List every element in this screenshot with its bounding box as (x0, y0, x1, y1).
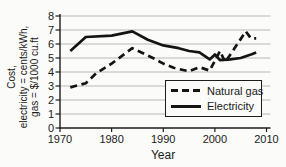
x-tick-label-2010: 2010 (249, 134, 285, 145)
legend-label-electricity: Electricity (207, 100, 254, 112)
y-tick-label-1: 1 (36, 109, 54, 120)
legend-label-natural-gas: Natural gas (207, 85, 263, 97)
x-tick-label-1980: 1980 (94, 134, 130, 145)
x-axis-title: Year (60, 148, 266, 162)
chart-figure: Cost, electricity = cents/kWh, gas = $/1… (0, 0, 286, 167)
x-tick-label-1990: 1990 (145, 134, 181, 145)
y-tick-label-0: 0 (36, 123, 54, 134)
y-tick-label-8: 8 (36, 11, 54, 22)
x-tick-label-2000: 2000 (197, 134, 233, 145)
y-tick-label-3: 3 (36, 81, 54, 92)
legend-item-natural-gas: Natural gas (171, 85, 256, 97)
y-tick-label-7: 7 (36, 25, 54, 36)
natural-gas-line-sample-icon (171, 89, 201, 92)
x-tick-label-1970: 1970 (42, 134, 78, 145)
y-tick-label-6: 6 (36, 39, 54, 50)
y-tick-label-2: 2 (36, 95, 54, 106)
y-tick-label-4: 4 (36, 67, 54, 78)
legend-item-electricity: Electricity (171, 100, 256, 112)
legend: Natural gas Electricity (165, 80, 262, 117)
y-tick-label-5: 5 (36, 53, 54, 64)
electricity-line-sample-icon (171, 105, 201, 108)
